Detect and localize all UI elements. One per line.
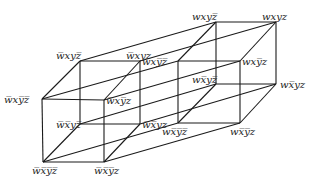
vertex-label: w̅xy̅z̅ — [4, 95, 29, 105]
vertex-label: w̅xy̅z — [106, 96, 131, 106]
vertex-label: wx̅y̅z — [230, 127, 255, 137]
edge-line — [80, 84, 216, 124]
vertex-label: wx̅yz — [280, 80, 305, 90]
vertex-label: w̅x̅y̅z — [94, 166, 119, 176]
edge-line — [140, 84, 276, 124]
vertex-label: wxyz̅ — [192, 12, 217, 22]
vertex-label: wx̅yz̅ — [192, 75, 217, 85]
vertex-label: wx̅y̅z̅ — [162, 127, 187, 137]
vertex-label: w̅x̅yz̅ — [56, 120, 81, 130]
edge-line — [42, 99, 43, 162]
vertex-label: wxy̅z̅ — [142, 57, 167, 67]
edge-line — [42, 99, 104, 100]
vertex-label: w̅xyz̅ — [56, 51, 81, 61]
hypercube-edges — [0, 0, 317, 185]
vertex-label: wxy̅z — [242, 57, 267, 67]
hypercube-diagram: w̅xy̅z̅w̅xy̅zw̅x̅y̅z̅w̅x̅y̅zw̅xyz̅w̅xyzw… — [0, 0, 317, 185]
vertex-label: w̅x̅y̅z̅ — [32, 166, 57, 176]
vertex-label: wxyz — [262, 12, 287, 22]
